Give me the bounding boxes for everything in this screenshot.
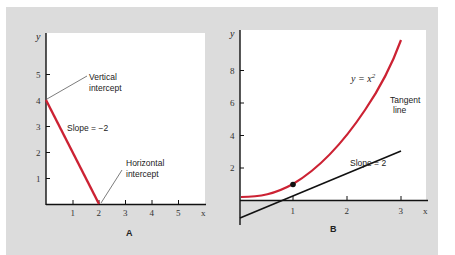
- vertical-intercept-label-2: intercept: [89, 83, 122, 93]
- tick-label: 2: [230, 163, 235, 173]
- horizontal-intercept-label-2: intercept: [126, 169, 159, 179]
- tick-label: 2: [36, 148, 41, 158]
- tick-label: 5: [176, 208, 181, 218]
- figure: y x 1 2 3 4 5 1 2 3 4 5: [0, 0, 455, 255]
- tick-label: 8: [230, 66, 235, 76]
- tick-label: 3: [123, 208, 128, 218]
- tick-label: 6: [230, 98, 235, 108]
- tangency-point: [290, 182, 296, 188]
- tick-label: 4: [150, 208, 155, 218]
- tangent-line-label-1: Tangent: [390, 95, 421, 105]
- panel-a-y-label: y: [35, 31, 41, 42]
- slope-label-b: Slope = 2: [350, 158, 386, 168]
- panel-a: y x 1 2 3 4 5 1 2 3 4 5: [35, 31, 206, 238]
- tick-label: 4: [36, 96, 41, 106]
- panel-b: y x 1 2 3 2 4 6 8 y = x2 Tangent line Sl…: [229, 28, 428, 234]
- horizontal-intercept-label-1: Horizontal: [126, 158, 164, 168]
- tick-label: 5: [36, 70, 41, 80]
- panel-b-y-label: y: [229, 28, 235, 39]
- tick-label: 1: [36, 174, 41, 184]
- tick-label: 2: [345, 206, 350, 216]
- tick-label: 2: [97, 208, 102, 218]
- vertical-intercept-label-1: Vertical: [89, 72, 117, 82]
- tick-label: 1: [71, 208, 76, 218]
- tick-label: 3: [36, 122, 41, 132]
- panel-a-caption: A: [126, 228, 133, 238]
- tick-label: 3: [399, 206, 404, 216]
- tangent-line-label-2: line: [393, 105, 407, 115]
- tick-label: 1: [291, 206, 296, 216]
- slope-label-a: Slope = −2: [67, 123, 108, 133]
- panel-b-caption: B: [330, 224, 337, 234]
- panel-b-x-label: x: [423, 206, 428, 216]
- panel-a-x-label: x: [201, 208, 206, 218]
- panel-b-plot-area: [240, 30, 426, 200]
- tick-label: 4: [230, 131, 235, 141]
